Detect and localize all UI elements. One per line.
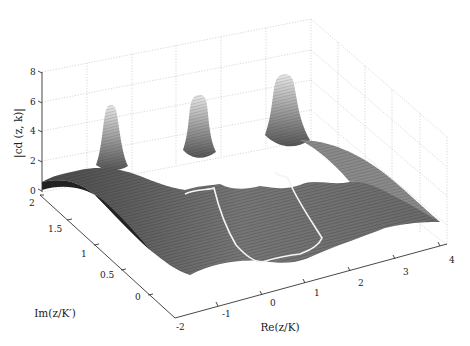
re-tick-3: 3 — [403, 267, 409, 277]
im-tick-0.5: 0.5 — [100, 270, 115, 280]
z-tick-4: 4 — [30, 126, 36, 136]
im-tick-0: 0 — [135, 292, 141, 302]
re-tick-2: 2 — [358, 278, 364, 288]
im-tick-1: 1 — [81, 249, 87, 259]
re-tick-4: 4 — [449, 255, 455, 265]
im-axis-label: Im(z/K′) — [34, 307, 76, 319]
re-tick-1: 1 — [314, 288, 320, 298]
re-tick-0: 0 — [270, 298, 276, 308]
z-tick-6: 6 — [30, 97, 36, 107]
z-axis-label: |cd (z, k)| — [12, 108, 26, 158]
re-tick-neg2: -2 — [176, 322, 185, 332]
im-tick-1.5: 1.5 — [48, 224, 63, 234]
surface-mesh — [42, 74, 440, 275]
re-tick-neg1: -1 — [222, 309, 231, 319]
z-tick-8: 8 — [30, 67, 36, 77]
re-axis-label: Re(z/K) — [260, 321, 299, 333]
surface-plot: 8 6 4 2 0 2 1.5 1 0.5 0 -2 -1 0 1 2 3 4 … — [0, 0, 470, 346]
z-tick-labels: 8 6 4 2 0 — [30, 67, 36, 196]
re-tick-labels: -2 -1 0 1 2 3 4 — [176, 255, 455, 332]
im-tick-2: 2 — [29, 198, 35, 208]
z-tick-0: 0 — [30, 186, 36, 196]
z-tick-2: 2 — [30, 156, 36, 166]
